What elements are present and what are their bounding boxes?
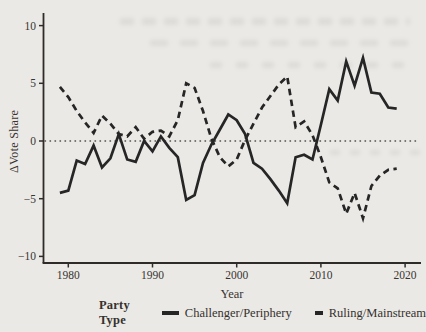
y-tick-label: −5 [24,193,36,205]
x-tick-label: 2010 [309,269,332,281]
x-tick-label: 2020 [394,269,417,281]
x-tick-label: 1990 [141,269,164,281]
series-line-challenger-periphery [60,58,397,203]
y-tick-label: 5 [30,77,36,89]
legend-item-challenger: Challenger/Periphery [162,306,292,321]
solid-line-swatch-icon [162,311,179,315]
series-line-ruling-mainstream [60,76,397,218]
y-axis-title: ΔVote Share [7,87,22,197]
y-tick-label: 10 [25,20,37,32]
line-chart-canvas: −10−5051019801990200020102020 [0,0,426,332]
x-tick-label: 1980 [57,269,80,281]
legend-label-ruling: Ruling/Mainstream [329,306,426,321]
dashed-line-swatch-icon [315,311,323,315]
legend-item-ruling: Ruling/Mainstream [315,306,426,321]
legend: Party Type Challenger/Periphery Ruling/M… [0,304,426,322]
legend-title: Party Type [99,298,143,328]
y-tick-label: −10 [18,250,36,262]
figure: −10−5051019801990200020102020 ΔVote Shar… [0,0,426,332]
x-tick-label: 2000 [225,269,248,281]
y-tick-label: 0 [30,135,36,147]
legend-label-challenger: Challenger/Periphery [185,306,292,321]
